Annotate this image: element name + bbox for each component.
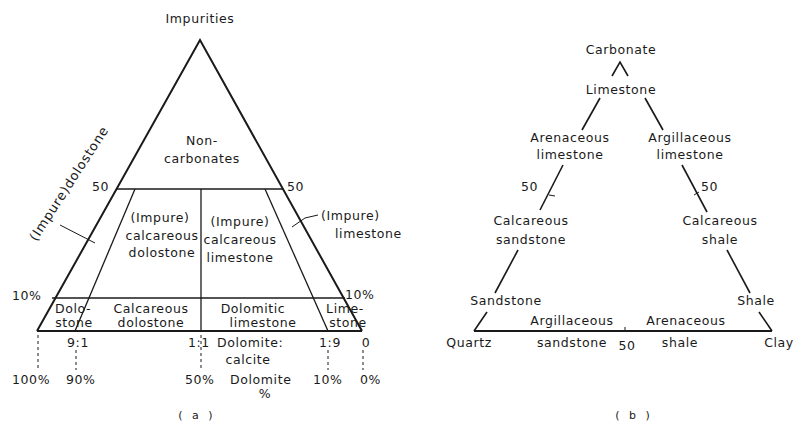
b-node-shale: Shale: [737, 294, 775, 307]
pct-tick-50: 50%: [185, 373, 215, 386]
b-node-argil-lime-2: limestone: [657, 148, 724, 161]
region-limestone-2: stone: [329, 316, 367, 329]
pct-axis-label-2: %: [259, 387, 271, 400]
b-node-calc-sand-2: sandstone: [496, 233, 566, 246]
region-impure-calc-dolo-3: dolostone: [129, 246, 196, 259]
pct-tick-10: 10%: [313, 373, 343, 386]
leader-dolostone: [60, 225, 95, 243]
region-dolostone-1: Dolo-: [55, 302, 91, 315]
region-noncarbonates-2: carbonates: [164, 152, 240, 165]
region-impure-calc-lime-1: (Impure): [211, 215, 270, 228]
b-node-argil-lime-1: Argillaceous: [648, 131, 731, 144]
region-dolomitic-lime-2: limestone: [230, 316, 297, 329]
b-node-calc-shale-2: shale: [702, 233, 738, 246]
b-aren-shale-1: Arenaceous: [646, 314, 725, 327]
region-calc-dolostone-2: dolostone: [118, 316, 185, 329]
b-apex-carbonate: Carbonate: [586, 43, 657, 56]
caption-a: ( a ): [178, 409, 215, 422]
b-node-clay: Clay: [764, 336, 794, 349]
right-leader-label-1: (Impure): [321, 209, 380, 222]
region-dolostone-2: stone: [55, 316, 93, 329]
b-node-calc-shale-1: Calcareous: [682, 214, 757, 227]
apex-label-impurities: Impurities: [166, 12, 235, 25]
b-argil-sand-2: sandstone: [537, 336, 607, 349]
ratio-axis-label-2: calcite: [225, 353, 270, 366]
b-argil-sand-1: Argillaceous: [530, 314, 613, 327]
pct-axis-label-1: Dolomite: [230, 373, 291, 386]
region-dolomitic-lime-1: Dolomitic: [221, 302, 286, 315]
region-impure-calc-dolo-2: calcareous: [125, 229, 198, 242]
leader-limestone: [292, 215, 318, 227]
pct-tick-100: 100%: [12, 373, 50, 386]
region-impure-calc-lime-3: limestone: [207, 251, 274, 264]
b-tick-50-left: 50: [521, 180, 538, 193]
tick-10-right: 10%: [345, 288, 375, 301]
tick-10-left: 10%: [12, 289, 42, 302]
tick-50-left: 50: [92, 180, 109, 193]
ratio-tick-1to9: 1:9: [319, 336, 341, 349]
region-calc-dolostone-1: Calcareous: [113, 302, 188, 315]
pct-tick-0: 0%: [360, 373, 381, 386]
b-node-calc-sand-1: Calcareous: [493, 214, 568, 227]
triangle-a-outline: [37, 40, 362, 331]
b-aren-shale-2: shale: [662, 336, 698, 349]
region-noncarbonates-1: Non-: [186, 134, 218, 147]
ratio-tick-9to1: 9:1: [67, 336, 89, 349]
tick-50-right: 50: [287, 180, 304, 193]
region-limestone-1: Lime-: [326, 302, 364, 315]
b-apex: [612, 62, 628, 76]
right-leader-label-2: limestone: [335, 227, 402, 240]
b-tick-50-right: 50: [701, 180, 718, 193]
pct-tick-90: 90%: [66, 373, 96, 386]
b-node-quartz: Quartz: [446, 336, 492, 349]
ratio-tick-1to1: 1:1: [188, 336, 210, 349]
b-node-aren-lime-2: limestone: [537, 148, 604, 161]
region-impure-calc-dolo-1: (Impure): [131, 211, 190, 224]
b-node-limestone: Limestone: [586, 83, 656, 96]
region-impure-calc-lime-2: calcareous: [203, 233, 276, 246]
b-tick-50-base: 50: [618, 339, 635, 352]
ratio-axis-label-1: Dolomite:: [217, 336, 283, 349]
b-node-aren-lime-1: Arenaceous: [530, 131, 609, 144]
b-node-sandstone: Sandstone: [470, 294, 542, 307]
caption-b: ( b ): [615, 409, 653, 422]
ratio-tick-0: 0: [362, 336, 371, 349]
